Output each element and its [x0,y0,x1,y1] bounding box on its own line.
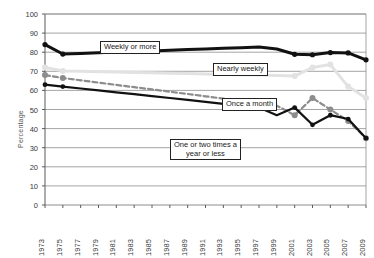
data-point [310,95,316,101]
data-point [42,42,47,47]
line-chart: Percentage 0102030405060708090100 197319… [0,0,374,258]
data-point [346,117,351,122]
callout-one-or-two-times-a-year-or-less: One or two times a year or less [170,139,241,160]
data-point [328,50,333,55]
data-point [364,136,369,141]
data-point [363,95,369,101]
data-point [345,84,351,90]
data-point [42,72,48,78]
series-line [45,85,366,139]
callout-once-a-month: Once a month [222,98,277,111]
callout-weekly-or-more: Weekly or more [100,41,160,54]
data-point [60,75,66,81]
data-point [292,112,298,118]
callout-nearly-weekly: Nearly weekly [213,63,268,76]
data-point [310,122,315,127]
data-point [310,52,315,57]
data-point [327,62,333,68]
data-point [292,73,298,79]
data-point [292,52,297,57]
data-point [60,68,66,74]
data-point [310,64,316,70]
data-point [363,57,368,62]
data-point [328,113,333,118]
data-point [60,51,65,56]
data-point [292,105,297,110]
data-point [43,82,48,87]
data-point [327,107,333,113]
data-point [42,64,48,70]
data-point [346,50,351,55]
data-point [60,84,65,89]
plot-area [0,0,374,258]
